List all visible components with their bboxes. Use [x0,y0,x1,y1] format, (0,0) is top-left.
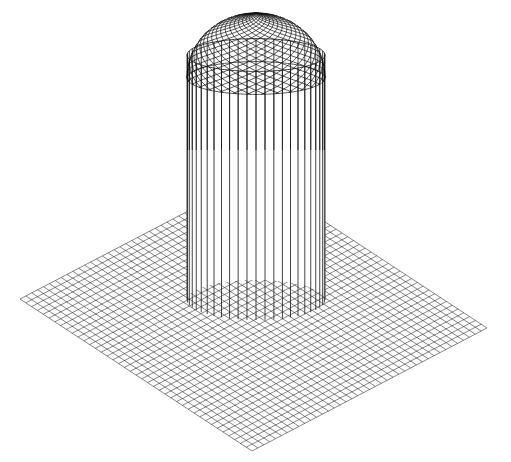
wireframe-cylinder-figure: Black line-art wireframe rendering: a ta… [0,0,511,462]
figure-container: Wireframe cylinder with domed cap on iso… [0,0,511,462]
